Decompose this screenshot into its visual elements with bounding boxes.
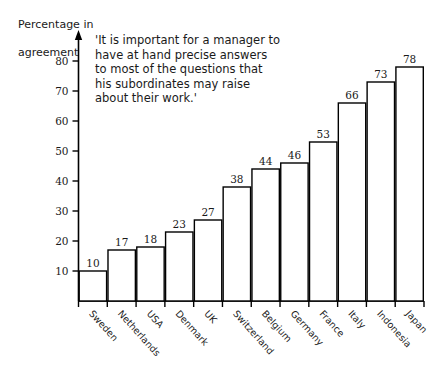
category-labels-layer: SwedenNetherlandsUSADenmarkUKSwitzerland… [79,301,430,358]
bar-value-label: 78 [403,53,416,65]
bar-value-label: 38 [230,173,243,185]
bar [137,247,164,301]
bar-value-label: 66 [345,89,359,101]
bar-value-label: 44 [259,155,273,167]
y-tick-label: 50 [55,145,68,157]
chart-container: Percentage in agreement 'It is important… [0,0,441,376]
bar [310,142,337,301]
y-tick-label: 80 [55,55,68,67]
x-category-label: Sweden [87,308,120,343]
bar [223,187,250,301]
bar [338,103,365,301]
y-axis-arrow-icon [75,30,82,40]
y-tick-label: 10 [55,265,68,277]
bar [166,232,193,301]
x-category-label: Japan [403,307,430,335]
y-tick-label: 60 [55,115,68,127]
bar-value-label: 27 [201,206,214,218]
bar-chart-plot: 1020304050607080 10171823273844465366737… [0,0,441,376]
bar-value-label: 17 [115,236,128,248]
bar [396,67,423,301]
bar [281,163,308,301]
bar [194,220,221,301]
bar [367,82,394,301]
bar-value-label: 10 [86,257,99,269]
bar-value-label: 46 [288,149,302,161]
bar-value-label: 73 [374,68,387,80]
y-tick-label: 70 [55,85,68,97]
y-tick-layer: 1020304050607080 [55,55,78,277]
bar [252,169,279,301]
y-tick-label: 20 [55,235,68,247]
x-category-label: UK [202,308,220,326]
x-category-label: USA [145,308,167,330]
bar [79,271,106,301]
bars-layer [79,67,423,301]
y-tick-label: 40 [55,175,68,187]
bar-value-label: 18 [144,233,157,245]
y-axis-group [75,30,82,301]
bar-value-label: 53 [317,128,330,140]
bar-value-label: 23 [173,218,186,230]
y-tick-label: 30 [55,205,68,217]
x-category-label: France [317,308,346,339]
x-category-label: Italy [346,308,368,331]
bar [108,250,135,301]
